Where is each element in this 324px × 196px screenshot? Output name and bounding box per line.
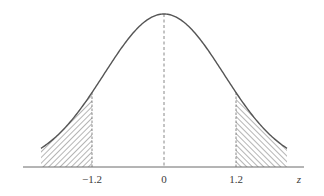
tick-label-1.2: 1.2 <box>229 173 243 185</box>
normal-distribution-chart: −1.2 0 1.2 z <box>0 0 324 196</box>
axis-label-z: z <box>296 173 302 185</box>
tick-label-0: 0 <box>161 173 167 185</box>
tick-label-neg-1.2: −1.2 <box>82 173 102 185</box>
